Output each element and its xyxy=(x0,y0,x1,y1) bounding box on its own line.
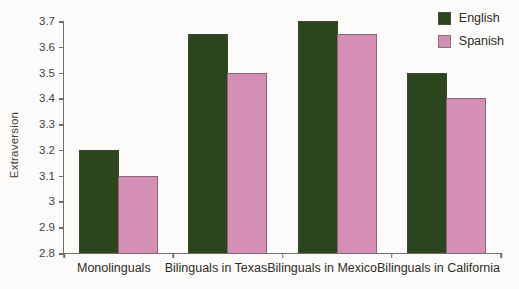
y-tick-label-3.1: 3.1 xyxy=(39,170,55,182)
plot-area: 3.73.63.53.43.33.23.132.92.8 xyxy=(63,21,501,254)
legend-item-spanish: Spanish xyxy=(438,34,504,48)
legend-swatch-spanish xyxy=(438,35,451,48)
y-tick-label-2.9: 2.9 xyxy=(39,221,55,233)
x-label-bilinguals-in-california: Bilinguals in California xyxy=(377,261,500,275)
y-tick-label-3: 3 xyxy=(49,195,55,207)
y-tick-label-3.6: 3.6 xyxy=(39,41,55,53)
legend: EnglishSpanish xyxy=(438,11,504,48)
x-label-monolinguals: Monolinguals xyxy=(63,261,165,275)
legend-label-english: English xyxy=(459,11,500,25)
bar-english-bilinguals-in-mexico xyxy=(298,21,338,253)
x-label-bilinguals-in-mexico: Bilinguals in Mexico xyxy=(267,261,377,275)
y-tick-label-3.5: 3.5 xyxy=(39,67,55,79)
bar-groups xyxy=(64,21,501,253)
bar-spanish-bilinguals-in-mexico xyxy=(337,34,377,253)
x-tick-3 xyxy=(391,253,393,258)
bar-group-bilinguals-in-mexico xyxy=(283,21,392,253)
y-tick-label-3.7: 3.7 xyxy=(39,15,55,27)
bar-group-monolinguals xyxy=(64,21,173,253)
bar-english-bilinguals-in-texas xyxy=(188,34,228,253)
x-label-bilinguals-in-texas: Bilinguals in Texas xyxy=(165,261,268,275)
bar-spanish-bilinguals-in-texas xyxy=(227,73,267,253)
bar-group-bilinguals-in-california xyxy=(392,21,501,253)
y-tick-label-3.3: 3.3 xyxy=(39,118,55,130)
x-tick-2 xyxy=(282,253,284,258)
legend-swatch-english xyxy=(438,12,451,25)
bar-spanish-monolinguals xyxy=(118,176,158,253)
x-axis-labels: MonolingualsBilinguals in TexasBilingual… xyxy=(63,261,500,275)
x-tick-1 xyxy=(173,253,175,258)
y-tick-label-3.2: 3.2 xyxy=(39,144,55,156)
bar-spanish-bilinguals-in-california xyxy=(446,98,486,253)
bar-english-monolinguals xyxy=(79,150,119,253)
bar-english-bilinguals-in-california xyxy=(407,73,447,253)
y-tick-label-2.8: 2.8 xyxy=(39,247,55,259)
x-tick-0 xyxy=(63,253,65,258)
y-tick-label-3.4: 3.4 xyxy=(39,92,55,104)
legend-label-spanish: Spanish xyxy=(459,34,504,48)
y-axis-title: Extraversion xyxy=(8,112,20,178)
legend-item-english: English xyxy=(438,11,504,25)
x-tick-4 xyxy=(500,253,502,258)
bar-group-bilinguals-in-texas xyxy=(173,21,282,253)
extraversion-bar-chart: Extraversion 3.73.63.53.43.33.23.132.92.… xyxy=(0,0,519,289)
